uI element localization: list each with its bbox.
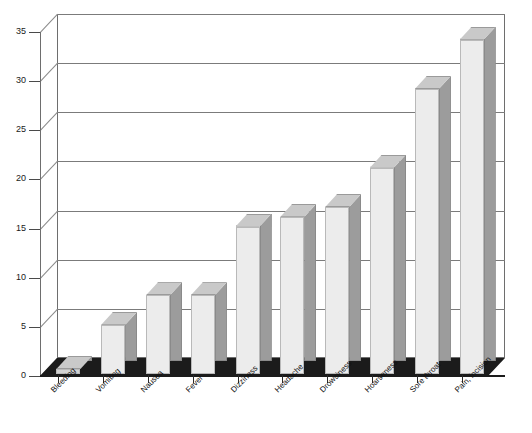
bar-front-face bbox=[146, 295, 170, 374]
bar-front-face bbox=[101, 325, 125, 374]
bar-side-face bbox=[260, 214, 272, 361]
bar-side-face bbox=[170, 282, 182, 361]
bar-fever[interactable] bbox=[191, 295, 215, 374]
chart-canvas: 05101520253035 BleedingVomitingNauseaFev… bbox=[0, 0, 532, 433]
bar-front-face bbox=[325, 207, 349, 374]
bar-hoarseness[interactable] bbox=[370, 168, 394, 374]
bar-nausea[interactable] bbox=[146, 295, 170, 374]
bar-sore-throat[interactable] bbox=[415, 89, 439, 374]
bar-front-face bbox=[236, 227, 260, 374]
bar-pain-incision[interactable] bbox=[460, 40, 484, 374]
bar-front-face bbox=[415, 89, 439, 374]
bar-group bbox=[0, 0, 532, 433]
bar-front-face bbox=[460, 40, 484, 374]
bar-front-face bbox=[280, 217, 304, 374]
bar-side-face bbox=[215, 282, 227, 361]
bar-front-face bbox=[370, 168, 394, 374]
bar-headache[interactable] bbox=[280, 217, 304, 374]
bar-front-face bbox=[191, 295, 215, 374]
bar-side-face bbox=[394, 155, 406, 361]
bar-top-face bbox=[56, 356, 92, 369]
bar-vomiting[interactable] bbox=[101, 325, 125, 374]
bar-side-face bbox=[439, 76, 451, 361]
bar-drowsiness[interactable] bbox=[325, 207, 349, 374]
bar-dizziness[interactable] bbox=[236, 227, 260, 374]
bar-side-face bbox=[304, 204, 316, 361]
bar-side-face bbox=[484, 27, 496, 361]
bar-side-face bbox=[349, 194, 361, 361]
